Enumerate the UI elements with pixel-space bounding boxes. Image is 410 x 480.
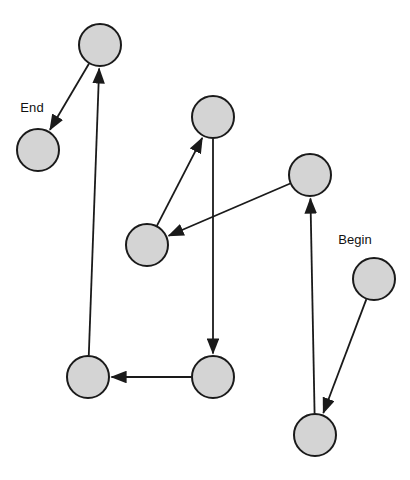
diagram-canvas: EndBegin	[0, 0, 410, 480]
graph-edge	[157, 138, 202, 226]
node-label-begin: Begin	[338, 232, 372, 247]
graph-edge	[310, 198, 314, 413]
graph-node[interactable]	[79, 24, 121, 66]
graph-node[interactable]	[126, 224, 168, 266]
graph-node[interactable]	[294, 414, 336, 456]
graph-node[interactable]	[192, 356, 234, 398]
graph-node[interactable]	[67, 356, 109, 398]
graph-node[interactable]	[17, 129, 59, 171]
graph-edge	[89, 68, 99, 355]
graph-edge	[323, 299, 366, 413]
graph-node[interactable]	[289, 154, 331, 196]
graph-edge	[50, 64, 89, 130]
graph-node[interactable]	[353, 258, 395, 300]
graph-node[interactable]	[192, 96, 234, 138]
graph-edge	[169, 183, 291, 235]
graph-svg: EndBegin	[0, 0, 410, 480]
node-label-end: End	[20, 100, 43, 115]
